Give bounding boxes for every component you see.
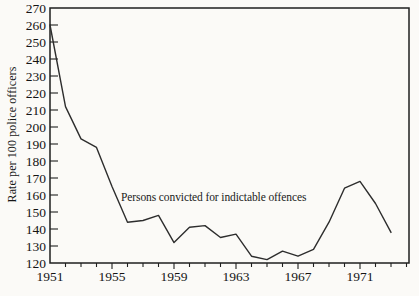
data-line-persons-convicted xyxy=(50,25,391,260)
y-tick-label: 240 xyxy=(26,52,47,67)
y-tick-label: 200 xyxy=(26,120,47,135)
plot-frame xyxy=(50,8,409,263)
y-tick-label: 270 xyxy=(26,1,47,16)
y-tick-label: 250 xyxy=(26,35,47,50)
y-tick-label: 190 xyxy=(26,137,47,152)
x-tick-label: 1951 xyxy=(37,269,64,284)
x-tick-label: 1959 xyxy=(161,269,188,284)
x-tick-label: 1971 xyxy=(347,269,374,284)
y-tick-label: 230 xyxy=(26,69,47,84)
y-tick-label: 160 xyxy=(26,188,47,203)
y-axis-title: Rate per 100 police officers xyxy=(5,54,20,216)
x-tick-label: 1955 xyxy=(99,269,126,284)
y-tick-label: 210 xyxy=(26,103,47,118)
x-tick-label: 1963 xyxy=(223,269,250,284)
x-tick-label: 1967 xyxy=(285,269,312,284)
y-tick-label: 140 xyxy=(26,222,47,237)
line-chart-svg: 1201301401501601701801902002102202302402… xyxy=(0,0,419,296)
y-tick-label: 260 xyxy=(26,18,47,33)
y-tick-label: 220 xyxy=(26,86,47,101)
chart-figure: 1201301401501601701801902002102202302402… xyxy=(0,0,419,296)
y-tick-label: 180 xyxy=(26,154,47,169)
y-tick-label: 170 xyxy=(26,171,47,186)
y-tick-label: 150 xyxy=(26,205,47,220)
y-tick-label: 130 xyxy=(26,239,47,254)
series-annotation: Persons convicted for indictable offence… xyxy=(121,191,306,203)
